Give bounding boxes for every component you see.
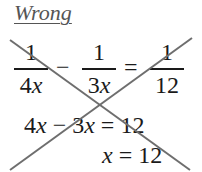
cross-out-icon bbox=[0, 0, 202, 172]
